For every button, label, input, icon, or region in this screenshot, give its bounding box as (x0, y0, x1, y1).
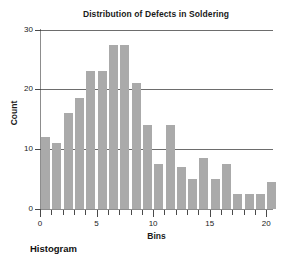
x-axis-title: Bins (40, 231, 273, 241)
x-tick-mark-12 (176, 210, 177, 215)
x-tick-mark-14 (198, 210, 199, 215)
x-tick-label-20: 20 (256, 219, 276, 228)
histogram-bar (188, 179, 197, 209)
x-tick-mark-11 (164, 210, 165, 215)
x-tick-mark-15 (210, 210, 211, 217)
x-tick-mark-2 (63, 210, 64, 215)
histogram-bar (199, 158, 208, 209)
histogram-bar (154, 164, 163, 209)
histogram-bar (267, 182, 276, 209)
x-tick-mark-3 (74, 210, 75, 215)
histogram-bar (245, 194, 254, 209)
y-tick-label-20: 20 (17, 84, 33, 93)
x-tick-mark-10 (153, 210, 154, 217)
histogram-bar (233, 194, 242, 209)
x-tick-mark-17 (232, 210, 233, 215)
y-tick-label-0: 0 (17, 204, 33, 213)
x-tick-label-10: 10 (143, 219, 163, 228)
x-tick-mark-13 (187, 210, 188, 215)
histogram-bar (120, 45, 129, 210)
histogram-bar (75, 98, 84, 209)
figure-caption: Histogram (30, 243, 77, 254)
x-tick-mark-7 (119, 210, 120, 215)
x-tick-mark-5 (97, 210, 98, 217)
histogram-bar (256, 194, 265, 209)
histogram-bar (177, 167, 186, 209)
histogram-bar (166, 125, 175, 209)
histogram-figure: Distribution of Defects in Soldering Cou… (0, 0, 283, 265)
x-tick-mark-0 (40, 210, 41, 217)
x-tick-mark-18 (244, 210, 245, 215)
histogram-bar (222, 164, 231, 209)
x-tick-mark-16 (221, 210, 222, 215)
histogram-bar (98, 71, 107, 209)
histogram-bar (41, 137, 50, 209)
y-tick-label-10: 10 (17, 144, 33, 153)
histogram-bar (109, 45, 118, 210)
y-tick-label-30: 30 (17, 25, 33, 34)
x-tick-mark-8 (131, 210, 132, 215)
x-tick-mark-19 (255, 210, 256, 215)
x-tick-label-15: 15 (200, 219, 220, 228)
x-tick-mark-1 (51, 210, 52, 215)
x-tick-mark-6 (108, 210, 109, 215)
histogram-bar (132, 83, 141, 209)
x-tick-mark-20 (266, 210, 267, 217)
x-tick-mark-4 (85, 210, 86, 215)
x-tick-label-0: 0 (30, 219, 50, 228)
histogram-bar (211, 179, 220, 209)
histogram-bar (86, 71, 95, 209)
x-axis-line (40, 209, 273, 210)
x-tick-mark-9 (142, 210, 143, 215)
histogram-bar (64, 113, 73, 209)
bars-layer (41, 29, 273, 209)
chart-title: Distribution of Defects in Soldering (36, 9, 276, 19)
histogram-bar (52, 143, 61, 209)
x-tick-label-5: 5 (87, 219, 107, 228)
histogram-bar (143, 125, 152, 209)
